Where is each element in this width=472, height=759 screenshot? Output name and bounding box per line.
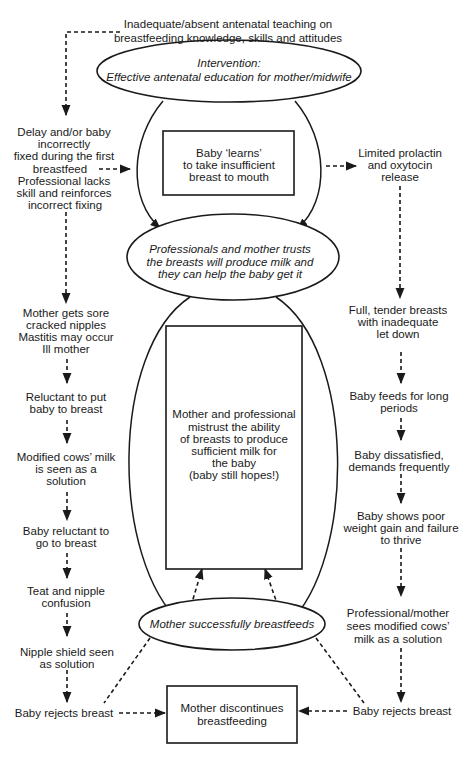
right-step-6-line-3: milk as a solution bbox=[354, 633, 442, 645]
mistrust-line-4: sufficient milk for bbox=[191, 445, 277, 457]
left-step-2-line-4: Ill mother bbox=[42, 343, 89, 355]
mistrust-line-2: mistrust the ability bbox=[188, 421, 280, 433]
right-step-3-line-1: Baby feeds for long bbox=[349, 390, 448, 402]
arc-left-upper bbox=[137, 101, 163, 228]
right-step-3-line-2: periods bbox=[380, 402, 418, 414]
left-step-modified-milk: Modified cows’ milk is seen as a solutio… bbox=[17, 451, 116, 487]
left-step-6-line-2: confusion bbox=[41, 597, 90, 609]
left-step-7-line-2: as solution bbox=[40, 658, 95, 670]
mistrust-line-3: of breasts to produce bbox=[180, 433, 288, 445]
left-step-6-line-1: Teat and nipple bbox=[27, 585, 105, 597]
trust-line-3: they can help the baby get it bbox=[158, 268, 303, 280]
right-step-poor-weight: Baby shows poor weight gain and failure … bbox=[342, 510, 458, 546]
left-step-4-line-2: is seen as a bbox=[35, 463, 97, 475]
trust-line-1: Professionals and mother trusts bbox=[149, 243, 311, 255]
left-step-7-line-1: Nipple shield seen bbox=[20, 646, 114, 658]
discontinue-line-1: Mother discontinues bbox=[181, 702, 284, 714]
right-step-full-breasts: Full, tender breasts with inadequate let… bbox=[349, 304, 448, 340]
right-step-dissatisfied: Baby dissatisfied, demands frequently bbox=[348, 449, 449, 473]
top-cause-line-2: breastfeeding knowledge, skills and atti… bbox=[114, 32, 342, 44]
left-step-2-line-3: Mastitis may occur bbox=[18, 331, 113, 343]
right-step-4-line-2: demands frequently bbox=[348, 461, 449, 473]
left-step-2-line-1: Mother gets sore bbox=[23, 307, 109, 319]
line-success-to-right-reject bbox=[316, 638, 364, 703]
right-step-6-line-2: sees modified cows’ bbox=[347, 620, 450, 632]
intervention-line-2: Effective antenatal education for mother… bbox=[106, 71, 351, 83]
right-step-prolactin: Limited prolactin and oxytocin release bbox=[358, 147, 442, 183]
right-step-7-line-1: Baby rejects breast bbox=[353, 705, 452, 717]
arc-right-upper bbox=[295, 101, 321, 228]
left-step-1-line-7: incorrect fixing bbox=[28, 199, 102, 211]
right-step-1-line-2: and oxytocin bbox=[368, 159, 433, 171]
left-step-1-line-2: incorrectly bbox=[38, 138, 91, 150]
left-step-5-line-1: Baby reluctant to bbox=[23, 525, 109, 537]
left-step-8-line-1: Baby rejects breast bbox=[15, 707, 114, 719]
success-line-1: Mother successfully breastfeeds bbox=[150, 618, 315, 630]
left-step-1-line-3: fixed during the first bbox=[14, 150, 115, 162]
left-chain: Delay and/or baby incorrectly fixed duri… bbox=[14, 126, 116, 719]
left-step-4-line-1: Modified cows’ milk bbox=[17, 451, 116, 463]
left-step-teat-confusion: Teat and nipple confusion bbox=[27, 585, 105, 609]
left-step-3-line-1: Reluctant to put bbox=[26, 391, 107, 403]
left-step-baby-reluctant: Baby reluctant to go to breast bbox=[23, 525, 109, 549]
learns-line-1: Baby ‘learns’ bbox=[196, 147, 262, 159]
right-step-6-line-1: Professional/mother bbox=[347, 607, 449, 619]
left-step-3-line-2: baby to breast bbox=[30, 403, 104, 415]
left-step-1-line-1: Delay and/or baby bbox=[17, 126, 111, 138]
left-step-1-line-4: breastfeed bbox=[33, 163, 87, 175]
right-step-long-feeds: Baby feeds for long periods bbox=[349, 390, 448, 414]
learns-text: Baby ‘learns’ to take insufficient breas… bbox=[183, 147, 276, 183]
success-text: Mother successfully breastfeeds bbox=[150, 618, 315, 630]
right-step-2-line-1: Full, tender breasts bbox=[349, 304, 448, 316]
intervention-line-1: Intervention: bbox=[197, 57, 260, 69]
right-step-2-line-2: with inadequate bbox=[357, 316, 439, 328]
left-step-1-line-6: skill and reinforces bbox=[16, 187, 111, 199]
right-step-2-line-3: let down bbox=[377, 328, 420, 340]
top-cause-line-1: Inadequate/absent antenatal teaching on bbox=[124, 18, 332, 30]
top-cause-text: Inadequate/absent antenatal teaching on … bbox=[114, 18, 342, 44]
mistrust-text: Mother and professional mistrust the abi… bbox=[172, 408, 295, 481]
trust-line-2: the breasts will produce milk and bbox=[147, 256, 314, 268]
discontinue-line-2: breastfeeding bbox=[197, 715, 267, 727]
left-step-1-line-5: Professional lacks bbox=[18, 175, 111, 187]
trust-text: Professionals and mother trusts the brea… bbox=[147, 243, 314, 280]
left-step-reluctant: Reluctant to put baby to breast bbox=[26, 391, 107, 415]
right-step-4-line-1: Baby dissatisfied, bbox=[354, 449, 444, 461]
breastfeeding-flow-diagram: Inadequate/absent antenatal teaching on … bbox=[0, 0, 472, 759]
left-step-2-line-2: cracked nipples bbox=[26, 319, 106, 331]
mistrust-line-5: the baby bbox=[212, 457, 256, 469]
left-step-5-line-2: go to breast bbox=[36, 537, 98, 549]
mistrust-line-1: Mother and professional bbox=[172, 408, 295, 420]
right-step-rejects-breast: Baby rejects breast bbox=[353, 705, 452, 717]
mistrust-line-6: (baby still hopes!) bbox=[189, 469, 279, 481]
learns-line-3: breast to mouth bbox=[189, 171, 269, 183]
right-step-5-line-3: to thrive bbox=[381, 534, 422, 546]
left-step-4-line-3: solution bbox=[46, 475, 86, 487]
right-step-5-line-1: Baby shows poor bbox=[357, 510, 445, 522]
left-step-rejects-breast: Baby rejects breast bbox=[15, 707, 114, 719]
right-step-1-line-3: release bbox=[381, 171, 419, 183]
left-step-nipple-shield: Nipple shield seen as solution bbox=[20, 646, 114, 670]
right-step-professional-milk: Professional/mother sees modified cows’ … bbox=[347, 607, 450, 645]
right-step-5-line-2: weight gain and failure bbox=[342, 522, 458, 534]
right-step-1-line-1: Limited prolactin bbox=[358, 147, 442, 159]
left-step-sore-nipples: Mother gets sore cracked nipples Mastiti… bbox=[18, 307, 113, 355]
learns-line-2: to take insufficient bbox=[183, 159, 276, 171]
